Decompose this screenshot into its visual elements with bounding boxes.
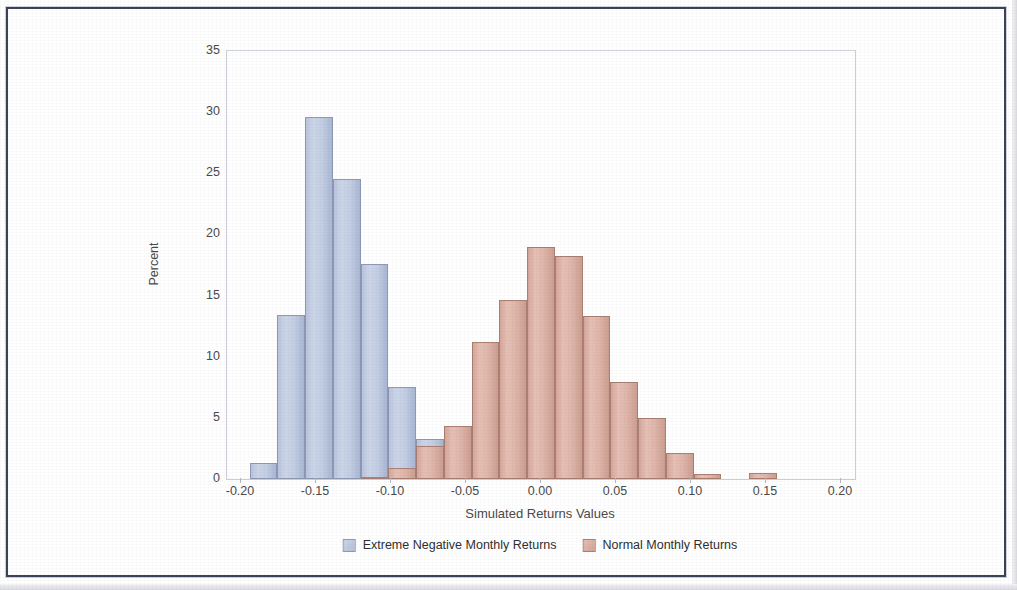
- y-axis-label: Percent: [147, 242, 161, 285]
- x-tick-label: 0.15: [753, 484, 777, 498]
- bar-red: [416, 446, 444, 479]
- x-tick-label: 0.10: [678, 484, 702, 498]
- y-tick-label: 0: [213, 471, 220, 485]
- x-tick-label: -0.10: [376, 484, 405, 498]
- x-tick-label: 0.00: [528, 484, 552, 498]
- bar-blue: [250, 463, 278, 479]
- bar-red: [444, 426, 472, 479]
- y-tick-label: 20: [206, 226, 220, 240]
- plot-area: [226, 50, 856, 480]
- legend-label: Extreme Negative Monthly Returns: [363, 538, 557, 552]
- y-tick-label: 30: [206, 104, 220, 118]
- x-tick-mark: [315, 478, 316, 483]
- bar-red: [472, 342, 500, 479]
- legend-item[interactable]: Normal Monthly Returns: [583, 538, 738, 552]
- x-axis-ticks: -0.20-0.15-0.10-0.050.000.050.100.150.20: [226, 484, 854, 502]
- x-tick-label: 0.05: [603, 484, 627, 498]
- bar-blue: [305, 117, 333, 479]
- x-tick-mark: [615, 478, 616, 483]
- bar-red: [499, 300, 527, 479]
- histogram-chart: Simulating Extreme 1-Month S&P 500 Index…: [0, 0, 1017, 590]
- y-tick-label: 10: [206, 349, 220, 363]
- scanned-page: Simulating Extreme 1-Month S&P 500 Index…: [0, 0, 1017, 590]
- x-tick-mark: [840, 478, 841, 483]
- x-tick-mark: [765, 478, 766, 483]
- x-tick-mark: [540, 478, 541, 483]
- bar-red: [638, 418, 666, 479]
- x-axis-label: Simulated Returns Values: [465, 506, 614, 521]
- x-tick-mark: [390, 478, 391, 483]
- bar-blue: [333, 179, 361, 479]
- chart-legend: Extreme Negative Monthly ReturnsNormal M…: [343, 538, 738, 552]
- x-tick-mark: [690, 478, 691, 483]
- bar-blue: [388, 387, 416, 479]
- y-tick-label: 15: [206, 288, 220, 302]
- x-tick-mark: [465, 478, 466, 483]
- bar-red: [610, 382, 638, 479]
- legend-swatch-icon: [343, 539, 356, 552]
- bar-red: [583, 316, 611, 479]
- x-tick-mark: [240, 478, 241, 483]
- bar-red: [666, 453, 694, 479]
- legend-swatch-icon: [583, 539, 596, 552]
- bar-blue: [277, 315, 305, 479]
- bar-blue: [361, 264, 389, 479]
- y-tick-label: 25: [206, 165, 220, 179]
- bar-red: [555, 256, 583, 479]
- x-tick-label: -0.05: [451, 484, 480, 498]
- x-tick-label: -0.15: [301, 484, 330, 498]
- x-tick-label: -0.20: [226, 484, 255, 498]
- legend-label: Normal Monthly Returns: [603, 538, 738, 552]
- x-tick-label: 0.20: [828, 484, 852, 498]
- legend-item[interactable]: Extreme Negative Monthly Returns: [343, 538, 557, 552]
- bar-red: [527, 247, 555, 479]
- y-tick-label: 35: [206, 43, 220, 57]
- bars-layer: [227, 51, 855, 479]
- y-tick-label: 5: [213, 410, 220, 424]
- y-axis-ticks: 05101520253035: [180, 50, 220, 478]
